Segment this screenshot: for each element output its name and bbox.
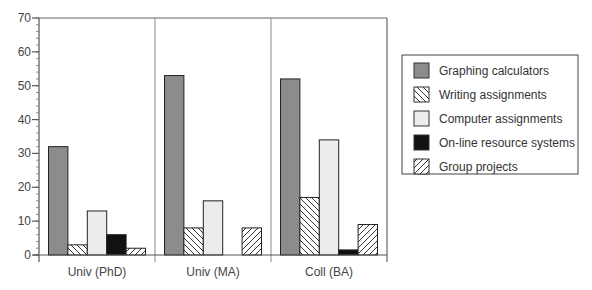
bar [184, 228, 203, 255]
legend-label: On-line resource systems [439, 136, 575, 150]
bar [358, 225, 377, 255]
legend-swatch-icon [414, 159, 429, 174]
bar [165, 76, 184, 255]
bar [87, 211, 106, 255]
bar [126, 248, 145, 255]
y-tick-label: 30 [18, 146, 32, 160]
x-axis-category-label: Univ (PhD) [68, 265, 127, 279]
legend-swatch-icon [414, 111, 429, 126]
legend-label: Computer assignments [439, 112, 562, 126]
bar [339, 250, 358, 255]
x-axis-category-label: Coll (BA) [305, 265, 353, 279]
bar [319, 140, 338, 255]
y-tick-label: 20 [18, 180, 32, 194]
y-tick-label: 10 [18, 214, 32, 228]
legend-label: Group projects [439, 160, 518, 174]
bar [49, 147, 68, 255]
y-tick-label: 50 [18, 79, 32, 93]
y-tick-label: 60 [18, 45, 32, 59]
bar [300, 197, 319, 255]
bar [107, 235, 126, 255]
y-tick-label: 70 [18, 11, 32, 25]
x-axis-category-label: Univ (MA) [186, 265, 239, 279]
legend-swatch-icon [414, 63, 429, 78]
bar [242, 228, 261, 255]
y-tick-label: 0 [24, 248, 31, 262]
legend-swatch-icon [414, 87, 429, 102]
legend-item: On-line resource systems [414, 135, 575, 150]
bar [203, 201, 222, 255]
bar-chart: Univ (PhD)Univ (MA)Coll (BA)010203040506… [0, 0, 592, 290]
legend-swatch-icon [414, 135, 429, 150]
plot-area [49, 76, 378, 255]
bar [68, 245, 87, 255]
y-tick-label: 40 [18, 113, 32, 127]
bar [281, 79, 300, 255]
legend-label: Writing assignments [439, 88, 547, 102]
legend-label: Graphing calculators [439, 64, 549, 78]
legend: Graphing calculatorsWriting assignmentsC… [402, 55, 578, 174]
